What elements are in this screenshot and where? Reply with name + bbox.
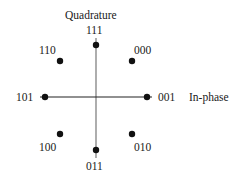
constellation-point-001 [144,94,150,100]
point-label-111: 111 [86,24,102,36]
constellation-point-101 [42,94,48,100]
point-label-110: 110 [39,44,56,56]
quadrature-axis-label: Quadrature [65,9,117,21]
constellation-point-000 [129,58,135,64]
constellation-point-100 [57,131,63,137]
point-label-101: 101 [16,91,33,103]
point-label-001: 001 [158,91,175,103]
constellation-point-111 [93,42,99,48]
in-phase-axis-label: In-phase [189,91,229,103]
constellation-point-010 [129,131,135,137]
constellation-diagram: Quadrature In-phase 111 000 001 010 011 … [0,0,245,189]
point-label-011: 011 [86,160,103,172]
point-label-000: 000 [134,44,151,56]
point-label-010: 010 [134,141,151,153]
point-label-100: 100 [39,141,56,153]
constellation-point-110 [57,58,63,64]
constellation-point-011 [93,147,99,153]
